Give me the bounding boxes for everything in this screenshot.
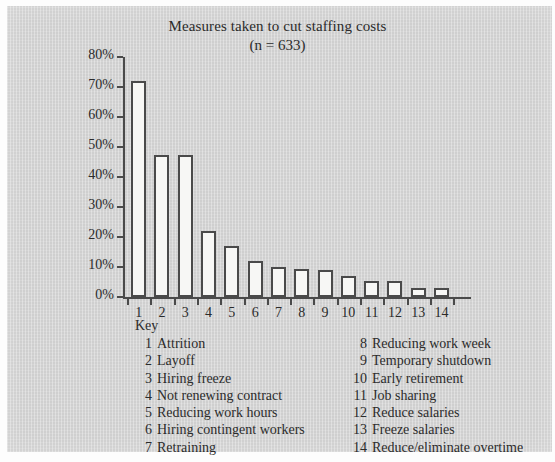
- key-item: 13Freeze salaries: [350, 421, 550, 438]
- key-item-number: 2: [135, 352, 152, 369]
- key-item-number: 8: [350, 335, 367, 352]
- key-item: 14Reduce/eliminate overtime: [350, 439, 550, 456]
- y-axis-tick-mark: [117, 236, 123, 238]
- y-axis-tick-mark: [117, 176, 123, 178]
- x-axis-tick-mark: [337, 299, 339, 305]
- y-axis-tick-label: 60%: [88, 107, 114, 123]
- key-column-left: 1Attrition2Layoff3Hiring freeze4Not rene…: [135, 335, 350, 456]
- key-item-number: 10: [350, 370, 367, 387]
- bar: [364, 281, 379, 298]
- y-axis-tick-mark: [117, 206, 123, 208]
- y-axis-tick-label: 40%: [88, 167, 114, 183]
- key-item-number: 1: [135, 335, 152, 352]
- x-axis-tick-mark: [453, 299, 455, 305]
- key-item-label: Attrition: [157, 335, 205, 352]
- key-item-number: 13: [350, 421, 367, 438]
- chart-title: Measures taken to cut staffing costs: [0, 17, 555, 36]
- key-item-label: Not renewing contract: [157, 387, 282, 404]
- y-axis-tick-mark: [117, 296, 123, 298]
- y-axis-tick-label: 30%: [88, 197, 114, 213]
- key-item-label: Reduce salaries: [372, 404, 459, 421]
- bar: [434, 288, 449, 297]
- x-axis-tick-mark: [150, 299, 152, 305]
- chart-title-block: Measures taken to cut staffing costs (n …: [0, 17, 555, 55]
- bar: [411, 288, 426, 297]
- key-item-label: Freeze salaries: [372, 421, 455, 438]
- y-axis-tick-mark: [117, 146, 123, 148]
- bar: [201, 231, 216, 297]
- bar: [294, 269, 309, 298]
- x-axis-tick-mark: [267, 299, 269, 305]
- key-column-right: 8Reducing work week9Temporary shutdown10…: [350, 335, 550, 456]
- x-axis-tick-mark: [244, 299, 246, 305]
- x-axis-tick-mark: [383, 299, 385, 305]
- y-axis-tick-label: 80%: [88, 47, 114, 63]
- bar-chart-plot-area: 0%10%20%30%40%50%60%70%80% 1234567891011…: [123, 57, 471, 297]
- chart-subtitle: (n = 633): [0, 36, 555, 55]
- x-axis-tick-mark: [290, 299, 292, 305]
- bar: [387, 281, 402, 298]
- bar: [224, 246, 239, 297]
- key-item: 6Hiring contingent workers: [135, 421, 350, 438]
- key-item-label: Reducing work week: [372, 335, 491, 352]
- key-item: 5Reducing work hours: [135, 404, 350, 421]
- key-item-label: Layoff: [157, 352, 195, 369]
- x-axis-tick-mark: [127, 299, 129, 305]
- y-axis-tick-label: 0%: [95, 287, 114, 303]
- key-item: 1Attrition: [135, 335, 350, 352]
- y-axis-tick-mark: [117, 86, 123, 88]
- key-item: 12Reduce salaries: [350, 404, 550, 421]
- key-item-label: Retraining: [157, 439, 216, 456]
- key-item-number: 6: [135, 421, 152, 438]
- y-axis-tick-mark: [117, 116, 123, 118]
- key-item-number: 5: [135, 404, 152, 421]
- key-item: 4Not renewing contract: [135, 387, 350, 404]
- key-item-number: 3: [135, 370, 152, 387]
- key-item-number: 14: [350, 439, 367, 456]
- key-item-number: 12: [350, 404, 367, 421]
- key-heading: Key: [135, 318, 535, 334]
- y-axis-tick-label: 50%: [88, 137, 114, 153]
- y-axis-tick-label: 70%: [88, 77, 114, 93]
- chart-page: Measures taken to cut staffing costs (n …: [0, 0, 555, 462]
- bar: [318, 270, 333, 297]
- bar: [341, 276, 356, 297]
- bar: [271, 267, 286, 297]
- key-item-label: Temporary shutdown: [372, 352, 491, 369]
- key-item-number: 4: [135, 387, 152, 404]
- key-item: 2Layoff: [135, 352, 350, 369]
- x-axis-tick-mark: [313, 299, 315, 305]
- y-axis-line: [123, 57, 125, 297]
- x-axis-tick-mark: [430, 299, 432, 305]
- x-axis-tick-mark: [407, 299, 409, 305]
- key-item-label: Reducing work hours: [157, 404, 278, 421]
- bar: [248, 261, 263, 297]
- key-item-number: 9: [350, 352, 367, 369]
- bar: [131, 81, 146, 297]
- chart-key: Key 1Attrition2Layoff3Hiring freeze4Not …: [135, 318, 535, 335]
- key-item-number: 7: [135, 439, 152, 456]
- bar: [178, 155, 193, 298]
- key-item: 3Hiring freeze: [135, 370, 350, 387]
- bar: [154, 155, 169, 298]
- y-axis-tick-label: 10%: [88, 257, 114, 273]
- y-axis-tick-label: 20%: [88, 227, 114, 243]
- key-item: 11Job sharing: [350, 387, 550, 404]
- x-axis-tick-mark: [197, 299, 199, 305]
- key-item-label: Early retirement: [372, 370, 463, 387]
- y-axis-tick-mark: [117, 266, 123, 268]
- key-item-number: 11: [350, 387, 367, 404]
- key-item-label: Hiring freeze: [157, 370, 231, 387]
- key-item: 8Reducing work week: [350, 335, 550, 352]
- key-item: 9Temporary shutdown: [350, 352, 550, 369]
- key-item: 7Retraining: [135, 439, 350, 456]
- key-item-label: Reduce/eliminate overtime: [372, 439, 523, 456]
- key-item: 10Early retirement: [350, 370, 550, 387]
- x-axis-tick-mark: [174, 299, 176, 305]
- x-axis-tick-mark: [220, 299, 222, 305]
- y-axis-tick-mark: [117, 56, 123, 58]
- key-item-label: Hiring contingent workers: [157, 421, 305, 438]
- key-item-label: Job sharing: [372, 387, 436, 404]
- x-axis-tick-mark: [360, 299, 362, 305]
